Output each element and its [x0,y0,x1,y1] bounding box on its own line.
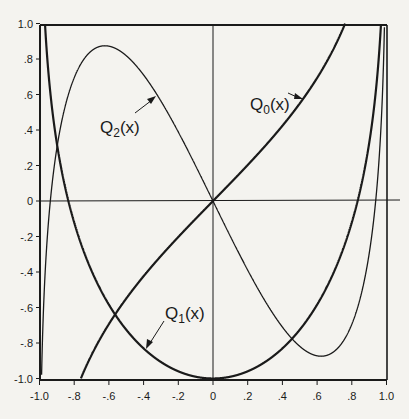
y-tick-label: -.4 [20,266,33,278]
legendre-q-chart: 1.0.8.6.4.20-.2-.4-.6-.8-1.0-1.0-.8-.6-.… [0,0,409,419]
y-tick-label: .6 [24,89,33,101]
y-tick-label: 0 [27,195,33,207]
x-tick-label: -.8 [68,390,81,402]
x-tick-label: -1.0 [30,390,49,402]
y-tick-label: 1.0 [18,18,33,30]
label-q0: Q0(x) [250,95,290,117]
x-tick-label: -.2 [172,390,185,402]
label-q1: Q1(x) [165,304,205,326]
arrow-q0 [288,93,303,99]
x-tick-label: -.6 [102,390,115,402]
y-tick-label: -.6 [20,302,33,314]
y-tick-label: .2 [24,160,33,172]
x-tick-label: -.4 [137,390,150,402]
y-tick-label: .8 [24,53,33,65]
x-tick-label: .6 [313,390,322,402]
plot-axes [40,25,400,380]
x-tick-label: .8 [347,390,356,402]
arrow-q1 [146,321,164,349]
arrow-q2 [135,96,156,113]
x-tick-label: .2 [243,390,252,402]
x-tick-label: .4 [278,390,287,402]
x-zero-axis [40,200,400,201]
x-tick-label: 1.0 [379,390,394,402]
y-tick-label: -.8 [20,337,33,349]
y-tick-label: -.2 [20,231,33,243]
y-tick-label: -1.0 [14,373,33,385]
label-q2: Q2(x) [100,118,140,140]
y-tick-label: .4 [24,124,33,136]
x-tick-label: 0 [210,390,216,402]
